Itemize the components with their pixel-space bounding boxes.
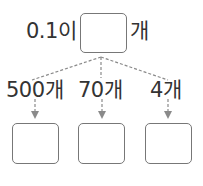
answer-box-3[interactable] <box>145 123 192 164</box>
answer-box-2[interactable] <box>78 123 125 164</box>
top-prefix: 0.1이 <box>26 19 76 43</box>
top-answer-box[interactable] <box>80 13 127 53</box>
label-500: 500개 <box>6 78 63 102</box>
answer-box-1[interactable] <box>12 123 59 164</box>
label-70: 70개 <box>78 78 122 102</box>
top-suffix: 개 <box>130 19 149 43</box>
label-4: 4개 <box>150 78 181 102</box>
